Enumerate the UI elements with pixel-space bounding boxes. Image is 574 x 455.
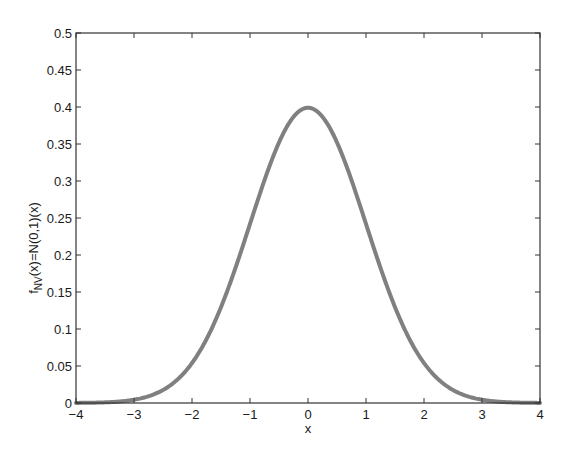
x-tick-label: 0: [304, 407, 311, 422]
x-tick-label: −3: [127, 407, 142, 422]
y-tick-label: 0.35: [47, 137, 72, 152]
x-tick-label: 4: [536, 407, 543, 422]
x-axis-label: x: [305, 421, 312, 436]
y-tick-label: 0.15: [47, 285, 72, 300]
y-tick-label: 0.4: [54, 100, 72, 115]
y-tick-label: 0.2: [54, 248, 72, 263]
x-tick-label: 1: [362, 407, 369, 422]
y-tick-label: 0.3: [54, 174, 72, 189]
y-tick-label: 0.1: [54, 322, 72, 337]
x-axis-ticks: −4−3−2−101234: [69, 33, 544, 422]
x-tick-label: −1: [243, 407, 258, 422]
y-tick-label: 0.45: [47, 63, 72, 78]
x-tick-label: 2: [420, 407, 427, 422]
x-tick-label: 3: [478, 407, 485, 422]
axes-box: [76, 33, 540, 403]
y-tick-label: 0.5: [54, 26, 72, 41]
y-tick-label: 0.25: [47, 211, 72, 226]
y-axis-ticks: 00.050.10.150.20.250.30.350.40.450.5: [47, 26, 540, 411]
y-tick-label: 0: [65, 396, 72, 411]
y-tick-label: 0.05: [47, 359, 72, 374]
x-tick-label: −2: [185, 407, 200, 422]
y-axis-label: fNV(x)=N(0,1)(x): [26, 202, 44, 294]
pdf-curve: [76, 108, 540, 403]
normal-distribution-chart: −4−3−2−101234 00.050.10.150.20.250.30.35…: [0, 0, 574, 455]
